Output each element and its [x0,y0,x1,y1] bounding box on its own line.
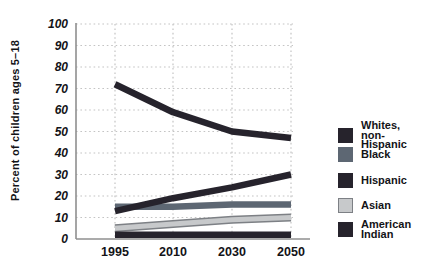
legend-swatch [338,147,353,162]
y-tick-label: 50 [38,125,68,139]
legend-swatch [338,222,353,237]
x-tick-label: 2050 [268,245,314,259]
y-tick-label: 20 [38,189,68,203]
legend-swatch [338,173,353,188]
y-tick-label: 100 [38,17,68,31]
legend-label: Whites, non-Hispanic [361,121,430,150]
legend-item-black: Black [338,147,390,162]
y-tick-label: 80 [38,60,68,74]
legend-item-whites-non-hispanic: Whites, non-Hispanic [338,121,430,150]
legend-item-asian: Asian [338,198,391,213]
y-tick-label: 60 [38,103,68,117]
x-tick-label: 2030 [209,245,255,259]
legend-label: Hispanic [361,176,407,186]
y-tick-label: 40 [38,146,68,160]
y-tick-label: 0 [38,232,68,246]
y-tick-label: 30 [38,168,68,182]
chart-figure: Percent of children ages 5–18 0102030405… [0,0,430,270]
legend-swatch [338,128,353,143]
legend-label: Black [361,150,390,160]
x-tick-label: 1995 [92,245,138,259]
series-line-whites-non-hispanic [115,84,291,138]
legend-label: American Indian [361,220,411,239]
legend-swatch [338,198,353,213]
x-tick-label: 2010 [150,245,196,259]
legend-item-hispanic: Hispanic [338,173,407,188]
y-tick-label: 70 [38,82,68,96]
legend-label: Asian [361,201,391,211]
y-tick-label: 90 [38,39,68,53]
legend-item-american-indian: American Indian [338,220,411,239]
y-axis-title: Percent of children ages 5–18 [9,40,22,202]
y-tick-label: 10 [38,211,68,225]
